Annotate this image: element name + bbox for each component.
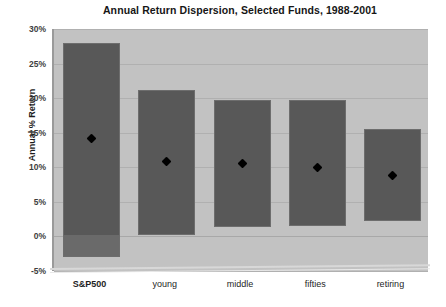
gridline-30: [54, 29, 428, 30]
y-tick-label: 0%: [6, 231, 46, 241]
y-tick-label: 10%: [6, 162, 46, 172]
y-tick-label: 15%: [6, 128, 46, 138]
plot-inner: [54, 29, 428, 271]
bar-segment-below-zero: [64, 235, 119, 256]
y-tick-label: 25%: [6, 59, 46, 69]
y-tick-label: -5%: [6, 266, 46, 276]
x-tick-label-retiring: retiring: [340, 279, 440, 289]
chart-title: Annual Return Dispersion, Selected Funds…: [52, 4, 428, 16]
y-tick-label: 20%: [6, 93, 46, 103]
y-tick-label: 5%: [6, 197, 46, 207]
y-axis-title: Annual % Return: [27, 45, 37, 205]
annual-return-dispersion-chart: Annual Return Dispersion, Selected Funds…: [0, 0, 446, 307]
plot-area: [52, 29, 428, 271]
y-tick-label: 30%: [6, 24, 46, 34]
range-bar-s-p500: [63, 43, 120, 257]
